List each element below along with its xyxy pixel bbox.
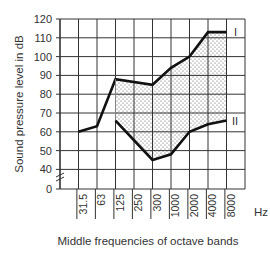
x-tick-label: 300	[151, 194, 163, 212]
y-tick-label: 120	[34, 13, 52, 25]
curve-label-i: I	[234, 26, 237, 38]
x-tick-label: 8000	[225, 194, 237, 218]
y-tick-label: 50	[40, 145, 52, 157]
y-tick-label: 110	[34, 32, 52, 44]
sound-pressure-chart: 1201101009080706050400 31.56312525030010…	[0, 0, 270, 255]
curve-label-ii: II	[232, 115, 238, 127]
x-tick-label: 4000	[206, 194, 218, 218]
y-axis-title: Sound pressure level in dB	[13, 35, 25, 173]
x-tick-label: 63	[95, 194, 107, 206]
y-tick-label: 40	[40, 163, 52, 175]
x-tick-label: 125	[114, 194, 126, 212]
x-tick-label: 31.5	[77, 194, 89, 215]
y-tick-label: 0	[46, 183, 52, 195]
y-tick-label: 80	[40, 88, 52, 100]
y-tick-label: 70	[40, 107, 52, 119]
y-tick-label: 90	[40, 69, 52, 81]
y-tick-label: 100	[34, 51, 52, 63]
y-tick-label: 60	[40, 126, 52, 138]
y-axis-ticks: 1201101009080706050400	[34, 13, 52, 195]
x-tick-label: 250	[132, 194, 144, 212]
x-axis-ticks: 31.5631252503001000200040008000	[77, 194, 237, 218]
x-axis-title: Middle frequencies of octave bands	[58, 235, 239, 247]
x-tick-label: 2000	[188, 194, 200, 218]
x-tick-label: 1000	[169, 194, 181, 218]
x-unit-label: Hz	[254, 206, 268, 218]
